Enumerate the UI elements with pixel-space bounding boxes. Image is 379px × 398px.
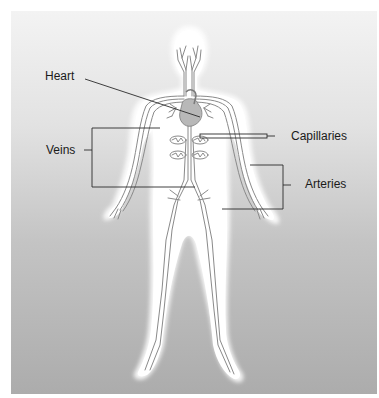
heart-label: Heart: [45, 69, 74, 83]
capillaries-label: Capillaries: [291, 129, 347, 143]
arteries-label: Arteries: [305, 177, 346, 191]
body-silhouette: [103, 26, 279, 382]
circulatory-system-diagram: [0, 0, 379, 398]
veins-label: Veins: [46, 143, 75, 157]
